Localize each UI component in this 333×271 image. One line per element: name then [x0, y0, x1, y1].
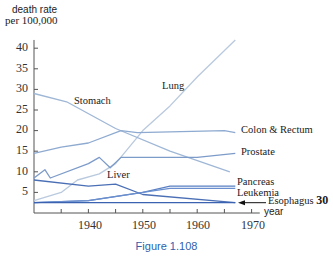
label-prostate: Prostate: [241, 146, 275, 157]
x-tick-1940: 1940: [70, 218, 110, 233]
y-tick-40: 40: [6, 40, 28, 55]
series-lines: [34, 40, 235, 203]
label-liver: Liver: [107, 169, 130, 180]
series-prostate: [34, 153, 235, 178]
y-tick-35: 35: [6, 61, 28, 76]
y-tick-30: 30: [6, 81, 28, 96]
series-liver: [34, 180, 235, 203]
y-tick-15: 15: [6, 143, 28, 158]
x-axis-label: year: [264, 206, 283, 217]
label-esophagus-number: 30: [316, 193, 328, 207]
label-esophagus-text: Esophagus: [268, 195, 314, 206]
esophagus-arrow-icon: [238, 200, 266, 205]
label-pancreas: Pancreas: [237, 176, 274, 187]
series-lung: [34, 40, 235, 201]
y-axis-label: death rate per 100,000: [5, 5, 58, 25]
y-tick-20: 20: [6, 122, 28, 137]
x-tick-1960: 1960: [178, 218, 218, 233]
figure-caption: Figure 1.108: [0, 240, 333, 252]
chart-canvas: [0, 0, 333, 271]
y-axis-label-line2: per 100,000: [5, 15, 58, 25]
x-tick-1970: 1970: [233, 218, 273, 233]
y-tick-10: 10: [6, 164, 28, 179]
label-lung: Lung: [162, 80, 184, 91]
label-stomach: Stomach: [74, 95, 111, 106]
x-tick-1950: 1950: [124, 218, 164, 233]
label-colon-rectum: Colon & Rectum: [241, 124, 313, 135]
y-tick-5: 5: [6, 184, 28, 199]
y-tick-25: 25: [6, 102, 28, 117]
series-colon-rectum: [34, 131, 235, 154]
